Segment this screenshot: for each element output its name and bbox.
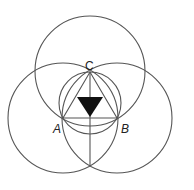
label-c: C xyxy=(85,59,94,73)
label-b: B xyxy=(121,122,129,136)
filled-inverted-triangle xyxy=(77,97,103,117)
label-a: A xyxy=(52,122,61,136)
geometry-diagram: C A B xyxy=(0,0,194,190)
